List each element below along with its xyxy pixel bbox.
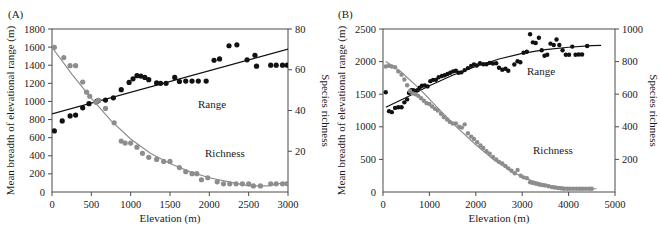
data-point-richness: [215, 179, 220, 184]
data-point-richness: [73, 63, 78, 68]
data-point-richness: [393, 65, 397, 69]
data-point-range: [280, 63, 285, 68]
data-point-richness: [154, 157, 159, 162]
data-point-range: [545, 53, 549, 57]
data-point-range: [268, 63, 273, 68]
data-point-richness: [399, 72, 403, 76]
y-tick-label-left: 2000: [355, 56, 376, 67]
data-point-range: [506, 69, 510, 73]
data-point-richness: [472, 137, 476, 141]
panel-a: (A)050010001500200025003000Elevation (m)…: [4, 8, 332, 225]
data-point-range: [234, 42, 239, 47]
data-point-range: [518, 60, 522, 64]
data-point-richness: [436, 108, 440, 112]
y-tick-label-left: 1400: [24, 60, 45, 71]
y-tick-label-left: 1800: [24, 24, 45, 35]
x-tick-label: 3000: [278, 199, 299, 210]
x-tick-label: 0: [380, 199, 385, 210]
y-tick-label-left: 2500: [355, 24, 376, 35]
data-point-range: [86, 101, 91, 106]
data-point-richness: [233, 181, 238, 186]
data-point-range: [189, 78, 194, 83]
data-point-richness: [405, 83, 409, 87]
data-point-range: [183, 78, 188, 83]
data-point-richness: [183, 169, 188, 174]
data-point-range: [103, 97, 108, 102]
y-tick-label-left: 800: [29, 114, 45, 125]
data-point-richness: [199, 177, 204, 182]
y-tick-label-left: 1000: [24, 96, 45, 107]
data-point-range: [554, 37, 558, 41]
y-tick-label-left: 600: [29, 132, 45, 143]
data-point-richness: [481, 146, 485, 150]
data-point-richness: [488, 151, 492, 155]
y-tick-label-left: 0: [40, 187, 45, 198]
data-point-richness: [227, 181, 232, 186]
data-point-range: [390, 110, 394, 114]
data-point-richness: [466, 131, 470, 135]
data-point-richness: [268, 181, 273, 186]
data-point-richness: [205, 175, 210, 180]
x-tick-label: 1500: [160, 199, 181, 210]
data-point-range: [111, 95, 116, 100]
y-tick-label-left: 400: [29, 150, 45, 161]
plot-frame: [52, 29, 288, 192]
data-point-range: [399, 105, 403, 109]
data-point-range: [539, 48, 543, 52]
y-axis-title-right: Species richness: [648, 74, 660, 146]
y-tick-label-right: 20: [295, 146, 306, 157]
data-point-range: [60, 118, 65, 123]
data-point-range: [274, 63, 279, 68]
data-point-range: [405, 97, 409, 101]
dual-panel-scatter-figure: (A)050010001500200025003000Elevation (m)…: [0, 0, 660, 232]
data-point-range: [384, 90, 388, 94]
y-tick-label-left: 1000: [355, 121, 376, 132]
x-tick-label: 3000: [512, 199, 533, 210]
data-point-richness: [140, 151, 145, 156]
data-point-richness: [52, 45, 57, 50]
data-point-range: [67, 113, 72, 118]
data-point-richness: [123, 141, 128, 146]
data-point-range: [80, 105, 85, 110]
data-point-richness: [61, 55, 66, 60]
y-tick-label-left: 1500: [355, 89, 376, 100]
data-point-richness: [462, 122, 466, 126]
y-tick-label-right: 1000: [622, 24, 643, 35]
data-point-range: [254, 64, 259, 69]
data-point-richness: [112, 120, 117, 125]
data-point-richness: [258, 183, 263, 188]
x-tick-label: 500: [83, 199, 99, 210]
data-point-range: [73, 112, 78, 117]
fit-line-richness-fit-sigmoid-decline: [386, 62, 597, 189]
y-tick-label-left: 1600: [24, 42, 45, 53]
x-tick-label: 1000: [419, 199, 440, 210]
data-point-richness: [525, 176, 529, 180]
data-point-range: [226, 43, 231, 48]
x-tick-label: 4000: [558, 199, 579, 210]
x-tick-label: 2000: [465, 199, 486, 210]
panel-label: (B): [338, 8, 353, 21]
y-tick-label-right: 200: [622, 154, 638, 165]
data-point-richness: [246, 181, 251, 186]
data-point-range: [285, 63, 290, 68]
data-point-richness: [146, 155, 151, 160]
data-point-range: [217, 56, 222, 61]
y-tick-label-left: 500: [360, 154, 376, 165]
y-tick-label-right: 40: [295, 105, 306, 116]
data-point-range: [560, 48, 564, 52]
data-point-range: [567, 53, 571, 57]
data-point-richness: [280, 181, 285, 186]
panel-label: (A): [8, 8, 24, 21]
figure-container: (A)050010001500200025003000Elevation (m)…: [0, 0, 660, 232]
data-point-range: [570, 44, 574, 48]
data-point-richness: [221, 181, 226, 186]
data-point-range: [252, 53, 257, 58]
data-point-range: [126, 80, 131, 85]
x-axis-title: Elevation (m): [469, 212, 530, 225]
y-tick-label-left: 0: [371, 187, 376, 198]
data-point-richness: [134, 145, 139, 150]
y-tick-label-right: 400: [622, 121, 638, 132]
x-tick-label: 2000: [199, 199, 220, 210]
y-tick-label-left: 1200: [24, 78, 45, 89]
data-point-richness: [285, 181, 290, 186]
